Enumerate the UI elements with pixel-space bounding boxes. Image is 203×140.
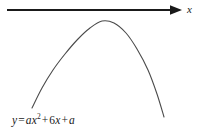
figure-container: x y=ax2+6x+a [0,0,203,140]
equation-equals: = [17,114,26,126]
x-axis-label: x [187,4,192,15]
equation-term3-operator: + [60,114,69,126]
equation-term3-constant: a [69,114,75,126]
equation-annotation: y=ax2+6x+a [12,114,75,127]
